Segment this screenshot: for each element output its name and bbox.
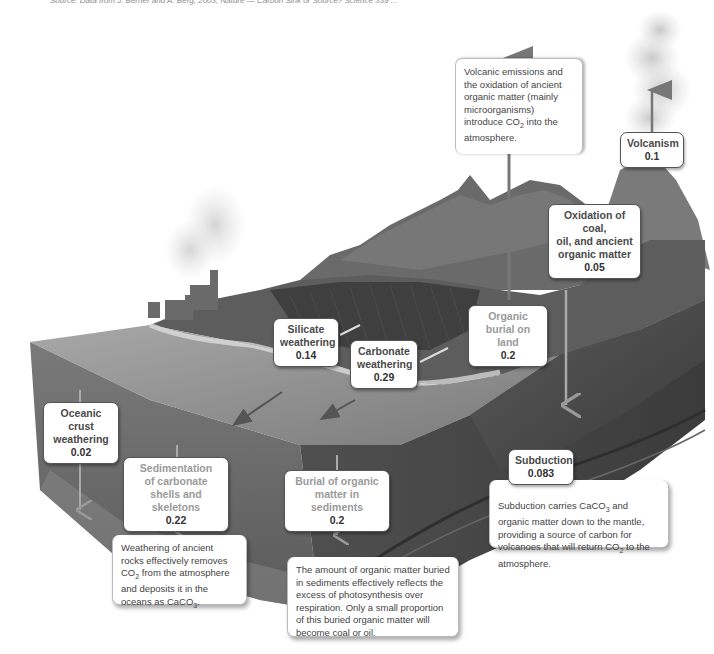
flux-oxidation: Oxidation of coal, oil, and ancient orga…: [548, 204, 641, 279]
flux-silicate-weathering: Silicate weathering 0.14: [273, 318, 339, 367]
flux-volcanism: Volcanism 0.1: [620, 132, 684, 168]
flux-subduction: Subduction 0.083: [508, 449, 574, 485]
flux-organic-burial-land: Organic burial on land 0.2: [468, 305, 548, 367]
factory-smoke: [165, 185, 245, 280]
note-subduction: Subduction carries CaCO3 and organic mat…: [489, 480, 669, 548]
note-organic-burial: The amount of organic matter buried in s…: [287, 557, 459, 637]
flux-burial-sediments: Burial of organic matter in sediments 0.…: [284, 470, 390, 532]
note-weathering: Weathering of ancient rocks effectively …: [112, 535, 247, 605]
note-volcanic-emissions: Volcanic emissions and the oxidation of …: [455, 58, 583, 154]
flux-carbonate-weathering: Carbonate weathering 0.29: [350, 340, 418, 389]
flux-oceanic-crust-weathering: Oceanic crust weathering 0.02: [43, 402, 119, 464]
flux-sedimentation: Sedimentation of carbonate shells and sk…: [123, 457, 229, 532]
volcano-smoke: [624, 10, 692, 140]
